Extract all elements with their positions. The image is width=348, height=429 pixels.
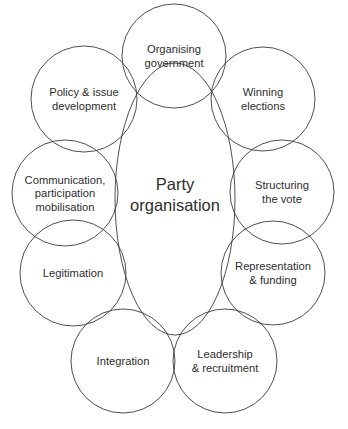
diagram-labels: OrganisinggovernmentPolicy & issuedevelo…	[25, 43, 311, 374]
label-integration: Integration	[97, 355, 150, 367]
label-legitimation: Legitimation	[43, 267, 103, 279]
label-communication-participation-mobilisation: Communication,participationmobilisation	[25, 174, 106, 213]
label-organising-government: Organisinggovernment	[144, 43, 204, 69]
party-functions-diagram: OrganisinggovernmentPolicy & issuedevelo…	[0, 0, 348, 429]
center-label: Partyorganisation	[130, 175, 220, 214]
label-winning-elections: Winningelections	[241, 86, 286, 112]
label-leadership-recruitment: Leadership& recruitment	[192, 348, 259, 374]
label-structuring-the-vote: Structuringthe vote	[255, 179, 309, 205]
label-policy-issue-development: Policy & issuedevelopment	[49, 86, 119, 112]
label-representation-funding: Representation& funding	[235, 260, 311, 286]
